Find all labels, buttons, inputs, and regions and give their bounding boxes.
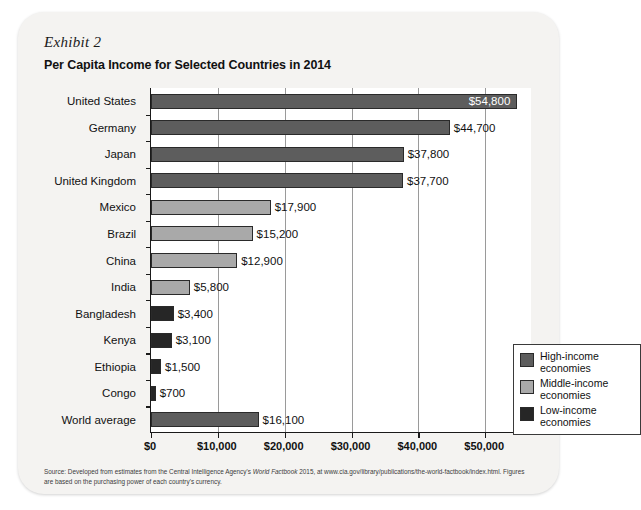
bar-row: $3,100 [151,333,531,348]
legend-swatch-high-icon [520,353,534,367]
bar-value-label: $37,800 [408,148,450,160]
chart-legend: High-incomeeconomiesMiddle-incomeeconomi… [513,344,641,435]
y-axis-tick [146,221,151,222]
bar-value-label: $37,700 [407,175,449,187]
bar-row: $16,100 [151,412,531,427]
legend-label-line2: economies [540,390,608,402]
legend-label-line2: economies [540,417,597,429]
exhibit-label: Exhibit 2 [44,34,101,51]
chart-title: Per Capita Income for Selected Countries… [44,58,331,72]
x-axis-label-10000: $10,000 [197,440,237,452]
category-label-bangladesh: Bangladesh [75,308,136,320]
source-note: Source: Developed from estimates from th… [44,467,534,486]
bar-value-label: $44,700 [454,122,496,134]
bar-congo[interactable] [151,386,156,401]
bar-value-label: $16,100 [263,414,305,426]
bar-value-label: $12,900 [241,255,283,267]
legend-item-high[interactable]: High-incomeeconomies [520,351,633,374]
bar-row: $17,900 [151,200,531,215]
bar-value-label: $54,800 [469,95,511,107]
bar-china[interactable] [151,253,237,268]
legend-swatch-low-icon [520,407,534,421]
legend-item-low[interactable]: Low-incomeeconomies [520,405,633,428]
bar-kenya[interactable] [151,333,172,348]
y-axis-tick [146,115,151,116]
legend-label-line2: economies [540,363,599,375]
category-label-brazil: Brazil [107,228,136,240]
category-label-mexico: Mexico [100,201,136,213]
bar-ethiopia[interactable] [151,359,161,374]
exhibit-card: Exhibit 2 Per Capita Income for Selected… [18,12,559,494]
bar-germany[interactable] [151,120,450,135]
legend-item-middle[interactable]: Middle-incomeeconomies [520,378,633,401]
y-axis-tick [146,406,151,407]
category-label-japan: Japan [105,148,136,160]
bar-row: $3,400 [151,306,531,321]
y-axis-tick [146,194,151,195]
y-axis-tick [146,353,151,354]
y-axis-tick [146,168,151,169]
x-axis-label-30000: $30,000 [331,440,371,452]
category-label-ethiopia: Ethiopia [94,361,136,373]
bar-value-label: $15,200 [257,228,299,240]
y-axis-tick [146,300,151,301]
bar-row: $5,800 [151,280,531,295]
bar-value-label: $3,100 [176,334,211,346]
x-axis-label-0: $0 [144,440,156,452]
x-axis-label-50000: $50,000 [464,440,504,452]
bar-row: $15,200 [151,226,531,241]
category-axis-labels: United StatesGermanyJapanUnited KingdomM… [18,88,144,433]
legend-swatch-middle-icon [520,380,534,394]
chart-plot-area: $54,800$44,700$37,800$37,700$17,900$15,2… [150,88,531,433]
bar-value-label: $700 [160,387,186,399]
bar-row: $700 [151,386,531,401]
category-label-germany: Germany [89,122,136,134]
bar-row: $1,500 [151,359,531,374]
bar-row: $44,700 [151,120,531,135]
bar-value-label: $1,500 [165,361,200,373]
bar-row: $37,800 [151,147,531,162]
x-axis-tick-50000 [485,432,486,438]
x-axis-tick-40000 [418,432,419,438]
legend-label-high: High-incomeeconomies [540,351,599,374]
x-axis-tick-20000 [285,432,286,438]
category-label-india: India [111,281,136,293]
y-axis-tick [146,274,151,275]
legend-label-line1: Low-income [540,405,597,417]
legend-label-line1: Middle-income [540,378,608,390]
category-label-united-states: United States [67,95,136,107]
bar-row: $12,900 [151,253,531,268]
bar-bangladesh[interactable] [151,306,174,321]
y-axis-tick [146,327,151,328]
bar-row: $54,800 [151,94,531,109]
y-axis-tick [146,141,151,142]
source-text-part2: 2015, at www.cia.gov/library/publication… [297,468,468,475]
x-axis-label-20000: $20,000 [264,440,304,452]
bar-row: $37,700 [151,173,531,188]
category-label-congo: Congo [102,387,136,399]
bar-value-label: $17,900 [275,201,317,213]
x-axis-tick-10000 [218,432,219,438]
category-label-united-kingdom: United Kingdom [54,175,136,187]
source-publication-title: World Factbook [253,468,298,475]
x-axis-tick-0 [151,432,152,438]
bar-united-states[interactable] [151,94,517,109]
y-axis-tick [146,247,151,248]
bar-brazil[interactable] [151,226,253,241]
x-axis-tick-30000 [352,432,353,438]
bar-value-label: $3,400 [178,308,213,320]
bar-world-average[interactable] [151,412,259,427]
x-axis-label-40000: $40,000 [397,440,437,452]
bar-india[interactable] [151,280,190,295]
bar-japan[interactable] [151,147,404,162]
category-label-world-average: World average [61,414,136,426]
source-text-part1: Source: Developed from estimates from th… [44,468,253,475]
y-axis-tick [146,380,151,381]
bar-mexico[interactable] [151,200,271,215]
bar-united-kingdom[interactable] [151,173,403,188]
category-label-kenya: Kenya [103,334,136,346]
legend-label-low: Low-incomeeconomies [540,405,597,428]
category-label-china: China [106,255,136,267]
legend-label-middle: Middle-incomeeconomies [540,378,608,401]
bars-layer: $54,800$44,700$37,800$37,700$17,900$15,2… [151,88,531,432]
